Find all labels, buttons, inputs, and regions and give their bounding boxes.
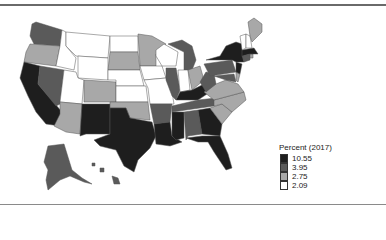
legend-label: 2.75 <box>292 172 308 181</box>
legend-swatch <box>280 172 288 181</box>
state-FL <box>186 136 232 170</box>
state-SD <box>108 52 140 70</box>
state-HI-2 <box>100 168 104 172</box>
state-HI <box>112 176 120 184</box>
legend-item: 10.55 <box>279 154 332 163</box>
legend-item: 2.75 <box>279 172 332 181</box>
state-NY <box>206 42 244 62</box>
bottom-rule <box>0 204 386 205</box>
state-PA <box>204 60 236 76</box>
state-WY <box>78 56 108 80</box>
state-ND <box>110 36 138 52</box>
state-CO <box>84 80 116 102</box>
map-legend: Percent (2017) 10.55 3.95 2.75 2.09 <box>279 143 332 190</box>
legend-label: 10.55 <box>292 154 312 163</box>
legend-label: 2.09 <box>292 181 308 190</box>
state-HI-3 <box>92 163 95 166</box>
state-MS <box>172 112 184 140</box>
state-WA <box>30 22 62 46</box>
state-IA <box>140 66 166 80</box>
legend-label: 3.95 <box>292 163 308 172</box>
state-OR <box>24 44 60 66</box>
state-NJ <box>236 62 242 74</box>
legend-title: Percent (2017) <box>279 143 332 152</box>
legend-swatch <box>280 154 288 163</box>
state-AK <box>44 144 92 190</box>
state-RI <box>250 54 253 58</box>
state-AZ <box>54 102 82 134</box>
state-KS <box>116 86 148 102</box>
legend-swatch <box>280 163 288 172</box>
legend-item: 3.95 <box>279 163 332 172</box>
legend-item: 2.09 <box>279 181 332 190</box>
legend-swatch <box>280 181 288 190</box>
state-IN <box>178 70 190 92</box>
state-NM <box>80 104 110 136</box>
state-AR <box>150 104 172 124</box>
